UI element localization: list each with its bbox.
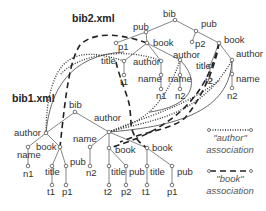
bib2-t2-label: t2 (205, 75, 213, 86)
bib2-name-c-label: name (236, 73, 260, 84)
bib2-pub-right-label: pub (201, 18, 217, 29)
bib2-pub-left-label: pub (133, 21, 149, 32)
bib2-bib-label: bib (163, 8, 176, 19)
bib1-p2-label: p2 (121, 186, 132, 197)
bib2-p1-label: p1 (118, 41, 129, 52)
bib1-author-left-label: author (14, 127, 41, 138)
bib2-n2-c-label: n2 (227, 90, 238, 101)
legend-author-label: "author" (213, 132, 247, 143)
xml-association-diagram: bib2.xml bib1.xml (0, 0, 266, 211)
bib2-t1-label: t1 (120, 76, 128, 87)
bib1-pub-right-label: pub (177, 166, 193, 177)
bib1-book-right-label: book (152, 142, 173, 153)
bib2-author-c-label: author (236, 48, 263, 59)
bib2-n2-b-label: n2 (175, 90, 186, 101)
bib1-t1-right-label: t1 (142, 186, 150, 197)
legend-author-association: "author" association (206, 129, 254, 156)
legend-book-association: "book" association (206, 170, 254, 197)
bib1-n1-label: n1 (23, 168, 34, 179)
legend-book-association-label: association (206, 185, 254, 196)
bib2-title-left-label: title (101, 55, 116, 66)
bib1-t1-left-label: t1 (47, 186, 55, 197)
bib1-title-left-label: title (45, 166, 60, 177)
bib2-book-left-label: book (153, 37, 174, 48)
bib2-name-b-label: name (168, 73, 192, 84)
legend-author-association-label: association (206, 144, 254, 155)
bib2-title: bib2.xml (72, 12, 115, 24)
bib1-title-mid-label: title (111, 166, 126, 177)
bib1-bib-label: bib (69, 99, 82, 110)
legend-book-label: "book" (216, 173, 244, 184)
bib1-n2-label: n2 (86, 167, 97, 178)
bib1-pub-mid-label: pub (129, 166, 145, 177)
bib1-p1-right-label: p1 (167, 186, 178, 197)
bib2-author-b-label: author (173, 49, 200, 60)
bib1-book-left-label: book (36, 141, 57, 152)
bib1-book-mid-label: book (115, 144, 136, 155)
bib2-n1-label: n1 (156, 90, 167, 101)
legend: "author" association "book" association (206, 129, 254, 197)
bib1-p1-left-label: p1 (62, 186, 73, 197)
bib2-title-right-label: title (196, 60, 211, 71)
bib1-name-right-label: name (73, 133, 97, 144)
bib1-title-right-label: title (150, 166, 165, 177)
bib1-t2-label: t2 (104, 186, 112, 197)
bib2-p2-label: p2 (195, 38, 206, 49)
bib1-pub-left-label: pub (70, 156, 86, 167)
bib2-book-right-label: book (224, 34, 245, 45)
bib1-author-right-label: author (94, 112, 121, 123)
bib2-name-a-label: name (138, 73, 162, 84)
bib2-author-a-label: author (133, 56, 160, 67)
